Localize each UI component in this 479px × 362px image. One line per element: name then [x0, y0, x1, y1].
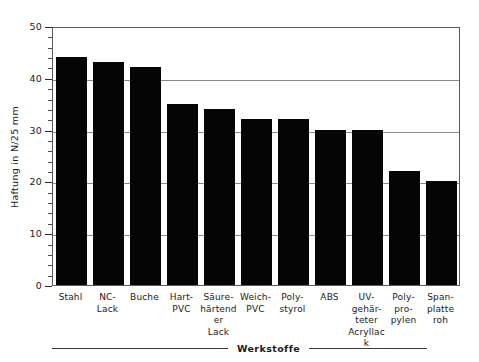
- y-tick-major: [45, 131, 52, 132]
- y-axis-title: Haftung in N/25 mm: [9, 106, 20, 208]
- bar: [204, 109, 235, 285]
- y-tick-major: [45, 286, 52, 287]
- bar: [241, 119, 272, 285]
- x-tick-label: Weich- PVC: [236, 292, 275, 315]
- x-axis-caption: Werkstoffe: [0, 340, 479, 356]
- x-tick-label: Poly- pro- pylen: [384, 292, 423, 327]
- bar: [93, 62, 124, 285]
- x-tick-label: Säure- härtender Lack: [199, 292, 238, 338]
- x-tick-label: Buche: [125, 292, 164, 304]
- y-tick-major: [45, 182, 52, 183]
- plot-area: [52, 27, 460, 286]
- bar-series: [53, 28, 459, 285]
- bar: [56, 57, 87, 285]
- x-axis-caption-label: Werkstoffe: [237, 343, 300, 354]
- y-tick-label: 0: [36, 281, 42, 291]
- caption-rule-left: [52, 348, 228, 349]
- x-tick-label: ABS: [310, 292, 349, 304]
- bar: [426, 181, 457, 285]
- x-tick-label: Hart- PVC: [162, 292, 201, 315]
- y-tick-major: [45, 234, 52, 235]
- y-tick-label: 30: [30, 126, 43, 136]
- y-tick-major: [45, 27, 52, 28]
- y-tick-major: [45, 79, 52, 80]
- y-tick-label: 40: [30, 74, 43, 84]
- x-tick-label: Poly- styrol: [273, 292, 312, 315]
- bar-chart: Haftung in N/25 mm 01020304050 StahlNC- …: [0, 0, 479, 362]
- bar: [315, 130, 346, 285]
- x-tick-label: Stahl: [51, 292, 90, 304]
- caption-rule-right: [309, 348, 427, 349]
- bar: [130, 67, 161, 285]
- bar: [389, 171, 420, 285]
- y-tick-label: 10: [30, 229, 43, 239]
- x-tick-label: Span- platte roh: [421, 292, 460, 327]
- bar: [352, 130, 383, 285]
- x-axis-labels: StahlNC- LackBucheHart- PVCSäure- härten…: [52, 292, 460, 340]
- x-tick-label: NC- Lack: [88, 292, 127, 315]
- bar: [167, 104, 198, 285]
- bar: [278, 119, 309, 285]
- y-axis: Haftung in N/25 mm 01020304050: [0, 0, 52, 313]
- y-tick-label: 50: [30, 22, 43, 32]
- y-tick-label: 20: [30, 178, 43, 188]
